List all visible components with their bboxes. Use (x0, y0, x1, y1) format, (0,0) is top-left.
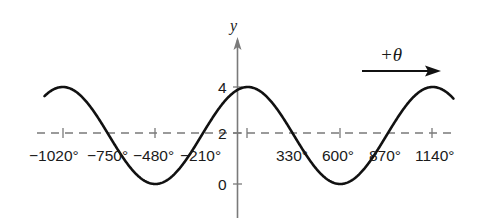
x-tick-label-1140: 1140° (415, 147, 455, 164)
x-tick-label-neg480: −480° (133, 147, 174, 164)
cosine-graph: y 4 2 0 −1020° −750° −480° −210° 330° 60… (0, 0, 478, 224)
y-tick-label-4: 4 (218, 79, 227, 96)
y-axis-label: y (228, 17, 238, 35)
x-tick-label-870: 870° (369, 147, 401, 164)
y-tick-label-0: 0 (218, 176, 227, 193)
theta-direction-label: +θ (380, 44, 402, 65)
y-tick-label-2: 2 (218, 125, 227, 142)
x-tick-label-330: 330° (276, 147, 308, 164)
x-tick-label-neg750: −750° (87, 147, 128, 164)
x-tick-label-neg210: −210° (180, 147, 221, 164)
cosine-curve (45, 87, 454, 184)
x-tick-label-600: 600° (322, 147, 354, 164)
x-tick-label-neg1020: −1020° (29, 147, 79, 164)
